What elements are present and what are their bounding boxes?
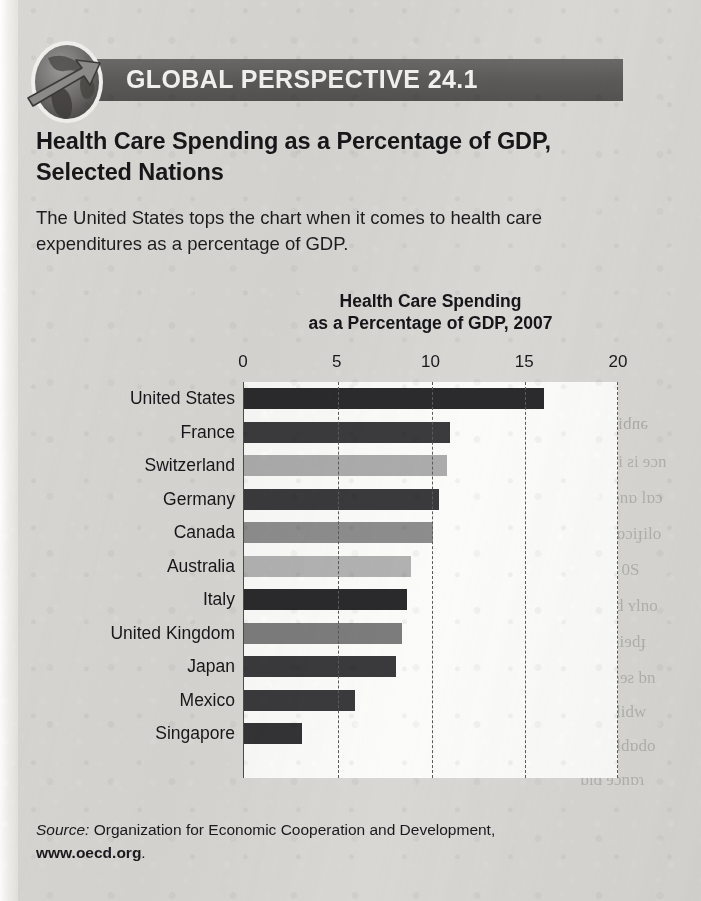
category-label-mexico: Mexico [0,690,235,711]
source-note: Source: Organization for Economic Cooper… [36,818,596,865]
source-text: Organization for Economic Cooperation an… [89,821,495,838]
bar-row [244,717,617,751]
gridline-10 [432,382,433,778]
bar-france [244,422,450,443]
category-label-canada: Canada [0,522,235,543]
bar-row [244,650,617,684]
category-label-italy: Italy [0,589,235,610]
chart-title-line-2: as a Percentage of GDP, 2007 [243,312,618,334]
feature-banner: GLOBAL PERSPECTIVE 24.1 [88,59,623,101]
category-label-france: France [0,422,235,443]
bar-italy [244,589,407,610]
bar-united-states [244,388,544,409]
category-label-germany: Germany [0,489,235,510]
chart-title-line-1: Health Care Spending [243,290,618,312]
x-axis-tick-labels: 05101520 [243,352,618,376]
bar-row [244,449,617,483]
x-axis-tick-5: 5 [332,352,341,372]
bar-row [244,416,617,450]
chart-title: Health Care Spending as a Percentage of … [243,290,618,334]
gridline-5 [338,382,339,778]
category-label-singapore: Singapore [0,723,235,744]
bar-row [244,516,617,550]
x-axis-tick-0: 0 [238,352,247,372]
bar-row [244,550,617,584]
category-label-united-states: United States [0,388,235,409]
gridline-15 [525,382,526,778]
source-period: . [141,844,145,861]
textbook-feature-page: ənbiun e ni ƨi ɘɔn ɔɘ bnɒ lɒɔ ɒg lɒɔiɟil… [0,0,701,901]
bar-switzerland [244,455,447,476]
bar-row [244,684,617,718]
globe-arrow-icon [24,30,110,128]
x-axis-tick-20: 20 [609,352,628,372]
category-label-australia: Australia [0,556,235,577]
bar-australia [244,556,411,577]
x-axis-tick-10: 10 [421,352,440,372]
plot-area [243,382,618,778]
bar-germany [244,489,439,510]
category-label-japan: Japan [0,656,235,677]
category-label-united-kingdom: United Kingdom [0,623,235,644]
source-url[interactable]: www.oecd.org [36,844,141,861]
intro-paragraph: The United States tops the chart when it… [36,205,576,258]
y-axis-category-labels: United StatesFranceSwitzerlandGermanyCan… [0,382,235,778]
category-label-switzerland: Switzerland [0,455,235,476]
bar-row [244,617,617,651]
bar-row [244,382,617,416]
x-axis-tick-15: 15 [515,352,534,372]
bar-rows [244,382,617,778]
page-title: Health Care Spending as a Percentage of … [36,126,596,189]
bar-japan [244,656,396,677]
banner-title: GLOBAL PERSPECTIVE 24.1 [126,65,478,94]
bar-singapore [244,723,302,744]
bar-united-kingdom [244,623,402,644]
bar-row [244,583,617,617]
source-prefix: Source: [36,821,89,838]
bar-row [244,483,617,517]
